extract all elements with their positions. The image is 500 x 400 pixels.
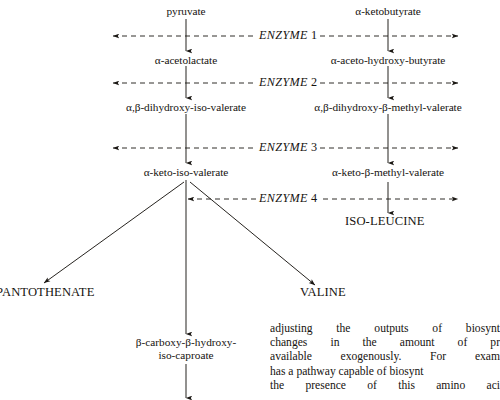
enzyme-label-3: ENZYME 3 xyxy=(256,140,320,155)
compound-beta-carboxy-beta-hydroxy-iso-caproate: β-carboxy-β-hydroxy- iso-caproate xyxy=(136,336,237,361)
enzyme-1-number: 1 xyxy=(311,28,317,42)
enzyme-4-number: 4 xyxy=(311,191,317,205)
compound-alpha-keto-iso-valerate: α-keto-iso-valerate xyxy=(144,166,229,179)
page-body-text: adjusting the outputs of biosynt changes… xyxy=(270,322,500,393)
compound-alpha-beta-dihydroxy-beta-methyl-valerate: α,β-dihydroxy-β-methyl-valerate xyxy=(314,101,461,114)
body-text-line-3: available exogenously. For exam xyxy=(270,350,500,364)
enzyme-label-2: ENZYME 2 xyxy=(256,75,320,90)
enzyme-3-name: ENZYME xyxy=(259,140,308,154)
compound-alpha-beta-dihydroxy-iso-valerate: α,β-dihydroxy-iso-valerate xyxy=(126,101,246,114)
body-text-line-5: the presence of this amino aci xyxy=(270,379,500,393)
intermediate-line-1: β-carboxy-β-hydroxy- xyxy=(136,336,237,348)
compound-alpha-ketobutyrate: α-ketobutyrate xyxy=(355,5,420,18)
enzyme-2-number: 2 xyxy=(311,75,317,89)
product-valine: VALINE xyxy=(300,285,346,300)
enzyme-label-4: ENZYME 4 xyxy=(256,191,320,206)
intermediate-line-2: iso-caproate xyxy=(158,349,213,361)
compound-pyruvate: pyruvate xyxy=(166,5,205,18)
enzyme-1-name: ENZYME xyxy=(259,28,308,42)
enzyme-label-1: ENZYME 1 xyxy=(256,28,320,43)
enzyme-3-number: 3 xyxy=(311,140,317,154)
compound-alpha-acetolactate: α-acetolactate xyxy=(155,54,217,67)
body-text-line-2: changes in the amount of pr xyxy=(270,336,500,350)
product-iso-leucine: ISO-LEUCINE xyxy=(345,214,424,229)
enzyme-2-name: ENZYME xyxy=(259,75,308,89)
compound-alpha-keto-beta-methyl-valerate: α-keto-β-methyl-valerate xyxy=(332,166,444,179)
compound-alpha-aceto-hydroxy-butyrate: α-aceto-hydroxy-butyrate xyxy=(331,54,446,67)
body-text-line-1: adjusting the outputs of biosynt xyxy=(270,322,500,336)
enzyme-4-name: ENZYME xyxy=(259,191,308,205)
body-text-line-4: has a pathway capable of biosynt xyxy=(270,365,500,379)
product-pantothenate: PANTOTHENATE xyxy=(0,285,94,300)
